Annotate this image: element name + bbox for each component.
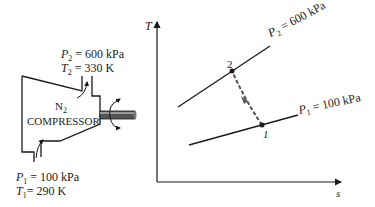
- process-path: [232, 71, 262, 125]
- gas-label: N2: [55, 100, 67, 113]
- inlet-pressure-label: P1 = 100 kPa: [16, 171, 79, 184]
- state-point-1: [260, 123, 265, 128]
- outlet-temperature-label: T2 = 330 K: [61, 62, 114, 75]
- state-1-label: 1: [263, 128, 269, 141]
- y-axis-label: T: [145, 20, 152, 33]
- inlet-flow-arrow: [36, 140, 43, 158]
- shaft: [100, 111, 137, 119]
- outlet-pressure-label: P2 = 600 kPa: [61, 48, 124, 61]
- compressor-name-label: COMPRESSOR: [27, 115, 100, 128]
- inlet-temperature-label: T1= 290 K: [16, 185, 66, 198]
- isobar-high-line: [178, 46, 270, 107]
- diagram-canvas: P2 = 600 kPa T2 = 330 K N2 COMPRESSOR P1…: [0, 0, 375, 207]
- state-2-label: 2: [227, 58, 233, 71]
- x-axis-label: s: [336, 187, 340, 200]
- isobar-low-line: [189, 115, 298, 145]
